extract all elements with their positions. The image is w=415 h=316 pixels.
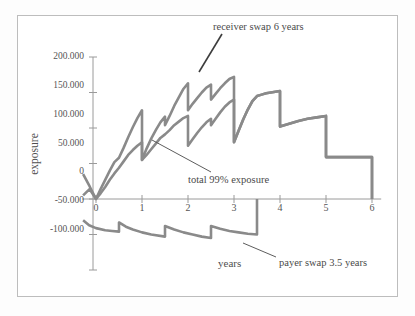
leader-line-total bbox=[152, 140, 211, 172]
x-tick-label-5: 5 bbox=[316, 203, 336, 213]
y-tick-label-200: 200.000 bbox=[24, 52, 84, 62]
annotation-receiver-swap: receiver swap 6 years bbox=[213, 22, 304, 33]
y-axis-title: exposure bbox=[28, 114, 40, 194]
curves-group bbox=[83, 77, 372, 238]
y-tick-label-150: 150.000 bbox=[24, 81, 84, 91]
axes-group bbox=[82, 57, 381, 270]
annotation-total-exposure: total 99% exposure bbox=[188, 175, 269, 186]
chart-page: 200.000 150.000 100.000 50.000 0 -50.000… bbox=[0, 0, 415, 316]
x-tick-label-4: 4 bbox=[270, 203, 290, 213]
chart-plot-area bbox=[0, 0, 415, 316]
annotation-payer-swap: payer swap 3.5 years bbox=[279, 258, 367, 269]
x-tick-label-3: 3 bbox=[224, 203, 244, 213]
x-axis-title: years bbox=[218, 258, 241, 269]
y-tick-label-neg50: -50.000 bbox=[24, 196, 84, 206]
y-tick-label-neg100: -100.000 bbox=[24, 225, 84, 235]
leader-line-payer bbox=[243, 243, 276, 257]
x-tick-label-1: 1 bbox=[132, 203, 152, 213]
x-tick-label-6: 6 bbox=[362, 203, 382, 213]
leader-line-receiver bbox=[199, 34, 222, 72]
x-tick-label-2: 2 bbox=[178, 203, 198, 213]
x-tick-label-0: 0 bbox=[86, 203, 106, 213]
